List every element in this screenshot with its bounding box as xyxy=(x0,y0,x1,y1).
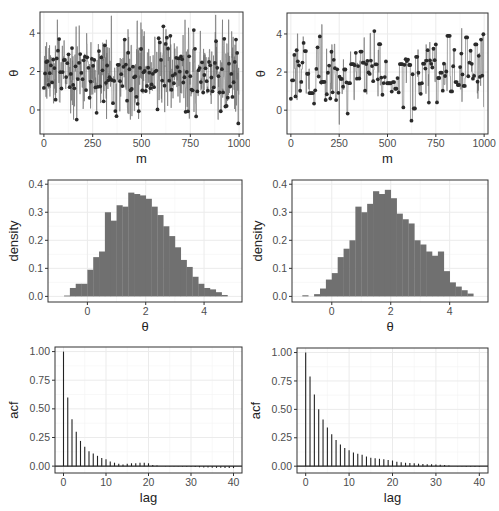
histogram-bar xyxy=(163,226,169,296)
histogram-bar xyxy=(450,282,456,296)
x-axis: 02505007501000 xyxy=(41,134,250,149)
histogram-bar xyxy=(210,289,216,296)
histogram-bar xyxy=(408,223,414,296)
histogram-bar xyxy=(444,271,450,296)
x-tick-label: 20 xyxy=(387,476,399,488)
y-tick-label: 2 xyxy=(276,66,282,78)
x-tick-label: 500 xyxy=(133,137,151,149)
x-axis-title: θ xyxy=(141,319,148,334)
x-tick-label: 500 xyxy=(379,137,397,149)
acf-plot-left: 0102030400.000.250.500.751.00lagacf xyxy=(0,340,250,511)
histogram-bar xyxy=(87,270,93,297)
histogram-bar xyxy=(105,212,111,296)
acf-plot-right: 0102030400.000.250.500.751.00lagacf xyxy=(250,340,499,511)
y-axis: 0.00.10.20.30.4 xyxy=(272,178,292,302)
histogram-bar xyxy=(456,287,462,297)
histogram-bar xyxy=(461,290,467,296)
histogram-bar xyxy=(175,247,181,296)
y-axis-title: density xyxy=(250,220,265,262)
x-axis-title: lag xyxy=(384,490,401,505)
y-axis: 0.000.250.500.751.00 xyxy=(272,346,297,472)
histogram-bar xyxy=(152,207,158,297)
histogram-bar xyxy=(426,252,432,297)
histogram-bar xyxy=(169,236,175,296)
y-tick-label: 2 xyxy=(29,65,35,77)
y-tick-label: 1.00 xyxy=(30,345,51,357)
y-tick-label: 0.3 xyxy=(272,206,287,218)
histogram-bar xyxy=(385,190,391,297)
y-tick-label: 0.50 xyxy=(272,403,293,415)
x-axis: 010203040 xyxy=(61,473,240,488)
y-axis-title: acf xyxy=(250,401,263,419)
histogram-bar xyxy=(397,214,403,297)
histogram-bar xyxy=(355,207,361,297)
trace-plot-left: 02505007501000024mθ xyxy=(0,0,250,170)
histogram-bar xyxy=(122,207,128,297)
histogram-bar xyxy=(222,295,228,296)
histogram-bar xyxy=(117,205,123,296)
y-tick-label: 0.75 xyxy=(272,375,293,387)
histogram-bar xyxy=(373,191,379,296)
y-tick-label: 0.2 xyxy=(272,234,287,246)
y-tick-label: 0.75 xyxy=(30,374,51,386)
y-tick-label: 0.0 xyxy=(28,290,43,302)
trace-plot-right: 02505007501000024mθ xyxy=(250,0,499,170)
x-tick-label: 30 xyxy=(430,476,442,488)
x-axis: 02505007501000 xyxy=(288,134,496,149)
histogram-bar xyxy=(320,289,326,297)
histogram-bar xyxy=(344,249,350,297)
x-axis: 024 xyxy=(84,302,207,317)
y-axis: 0.00.10.20.30.4 xyxy=(28,178,48,302)
x-tick-label: 40 xyxy=(228,476,240,488)
y-tick-label: 0.4 xyxy=(272,178,287,190)
x-axis: 010203040 xyxy=(303,473,486,488)
x-tick-label: 0 xyxy=(288,137,294,149)
y-axis-title: acf xyxy=(6,401,21,419)
histogram-bar xyxy=(349,240,355,296)
histogram-bar xyxy=(379,194,385,296)
y-tick-label: 4 xyxy=(276,28,282,40)
x-axis-title: lag xyxy=(140,490,157,505)
histogram-bar xyxy=(367,204,373,297)
histogram-bar xyxy=(216,292,222,296)
histogram-bar xyxy=(146,199,152,297)
y-axis-title: density xyxy=(6,220,21,262)
y-tick-label: 0.3 xyxy=(28,206,43,218)
histogram-bar xyxy=(93,257,99,296)
acf-plot-left-svg: 0102030400.000.250.500.751.00lagacf xyxy=(0,340,250,511)
histogram-bar xyxy=(140,195,146,296)
x-axis-title: θ xyxy=(386,319,393,334)
x-tick-label: 1000 xyxy=(227,137,250,149)
x-axis-title: m xyxy=(382,151,393,166)
x-tick-label: 10 xyxy=(343,476,355,488)
histogram-bar xyxy=(332,273,338,296)
y-tick-label: 0.25 xyxy=(30,431,51,443)
trace-plot-left-svg: 02505007501000024mθ xyxy=(0,0,250,170)
x-tick-label: 250 xyxy=(330,137,348,149)
histogram-bar xyxy=(187,267,193,296)
y-tick-label: 0 xyxy=(276,104,282,116)
histogram-bar xyxy=(157,215,163,296)
y-axis-title: θ xyxy=(6,69,21,76)
histogram-bar xyxy=(414,240,420,296)
x-tick-label: 1000 xyxy=(472,137,496,149)
x-tick-label: 0 xyxy=(84,305,90,317)
histogram-right: 0240.00.10.20.30.4θdensity xyxy=(250,170,499,340)
histogram-bar xyxy=(391,198,397,296)
histogram-bar xyxy=(134,194,140,296)
y-tick-label: 0.00 xyxy=(30,460,51,472)
x-tick-label: 0 xyxy=(41,137,47,149)
histogram-left: 0240.00.10.20.30.4θdensity xyxy=(0,170,250,340)
x-tick-label: 4 xyxy=(201,305,207,317)
histogram-bar xyxy=(99,252,105,297)
histogram-bar xyxy=(198,284,204,297)
y-tick-label: 4 xyxy=(29,27,35,39)
y-tick-label: 0.1 xyxy=(28,262,43,274)
histogram-bar xyxy=(420,245,426,297)
y-axis: 0.000.250.500.751.00 xyxy=(30,345,55,472)
histogram-bar xyxy=(128,193,134,297)
histogram-bar xyxy=(438,252,444,297)
histogram-bar xyxy=(432,256,438,297)
x-tick-label: 750 xyxy=(182,137,200,149)
y-tick-label: 0.2 xyxy=(28,234,43,246)
